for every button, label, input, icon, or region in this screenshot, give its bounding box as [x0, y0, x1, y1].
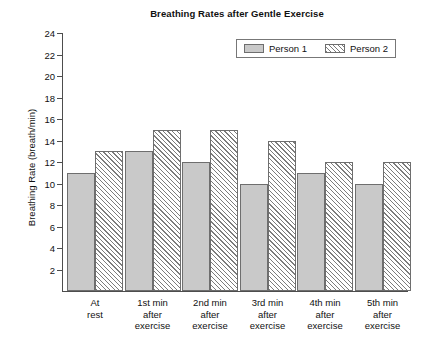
- y-axis-title: Breathing Rate (breath/min): [26, 43, 37, 293]
- bar-person-2[interactable]: [210, 130, 238, 291]
- bar-group: [355, 33, 411, 291]
- x-axis-label-line: exercise: [347, 320, 419, 332]
- x-axis-tick-label: 5th minafterexercise: [347, 297, 419, 332]
- bar-person-2[interactable]: [95, 151, 123, 291]
- x-axis-label-line: after: [347, 309, 419, 321]
- bar-person-1[interactable]: [67, 173, 95, 291]
- bar-person-1[interactable]: [125, 151, 153, 291]
- bar-person-2[interactable]: [153, 130, 181, 291]
- bar-person-2[interactable]: [383, 162, 411, 291]
- x-axis-label-line: 5th min: [347, 297, 419, 309]
- bar-person-2[interactable]: [325, 162, 353, 291]
- bar-group: [67, 33, 123, 291]
- bar-person-1[interactable]: [297, 173, 325, 291]
- bar-group: [240, 33, 296, 291]
- y-axis-tick-label: 24: [15, 28, 55, 39]
- breathing-rates-bar-chart: Breathing Rates after Gentle Exercise Pe…: [0, 0, 424, 344]
- bar-group: [125, 33, 181, 291]
- bar-person-1[interactable]: [240, 184, 268, 292]
- x-axis-line: [62, 291, 408, 292]
- plot-area: [62, 33, 408, 291]
- bar-group: [182, 33, 238, 291]
- bar-person-1[interactable]: [182, 162, 210, 291]
- bar-person-2[interactable]: [268, 141, 296, 292]
- bar-person-1[interactable]: [355, 184, 383, 292]
- chart-title: Breathing Rates after Gentle Exercise: [62, 8, 412, 19]
- bar-group: [297, 33, 353, 291]
